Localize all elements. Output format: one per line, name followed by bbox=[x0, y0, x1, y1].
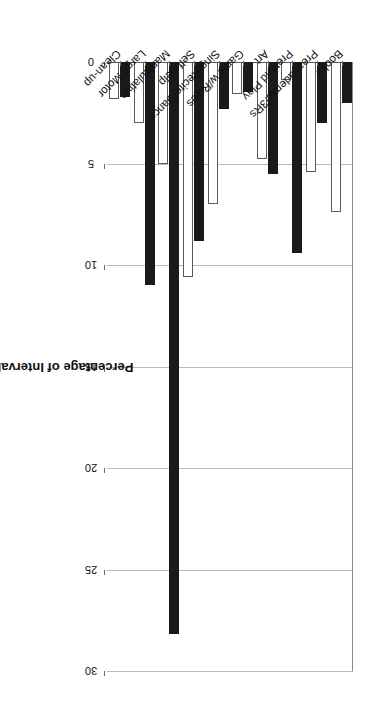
bar-series-2 bbox=[306, 62, 316, 172]
category-tick-mark bbox=[342, 61, 343, 66]
bar-series-1 bbox=[145, 62, 155, 285]
category-tick-mark bbox=[293, 61, 294, 66]
category-tick-mark bbox=[268, 61, 269, 66]
bar-group bbox=[133, 62, 155, 671]
value-tick-label: 5 bbox=[81, 158, 101, 170]
bar-group bbox=[158, 62, 180, 671]
value-tick-label: 10 bbox=[81, 259, 101, 271]
bar-chart: 051015202530 BooksPreacademic/3RsPretend… bbox=[0, 0, 367, 709]
value-tick-mark bbox=[104, 265, 105, 270]
value-tick-mark bbox=[104, 164, 105, 169]
bar-group bbox=[256, 62, 278, 671]
bar-series-1 bbox=[293, 62, 303, 253]
category-tick-mark bbox=[145, 61, 146, 66]
category-tick-mark bbox=[219, 61, 220, 66]
category-tick-mark bbox=[317, 61, 318, 66]
value-tick-mark bbox=[104, 570, 105, 575]
value-tick-label: 25 bbox=[81, 564, 101, 576]
bar-series-1 bbox=[170, 62, 180, 634]
bar-group bbox=[281, 62, 303, 671]
category-tick-mark bbox=[194, 61, 195, 66]
bar-group bbox=[330, 62, 352, 671]
figure-rotated-container: 051015202530 BooksPreacademic/3RsPretend… bbox=[0, 0, 367, 709]
gridline bbox=[107, 671, 353, 672]
bar-series-1 bbox=[342, 62, 352, 103]
value-axis-title: Percentage of Intervals bbox=[0, 359, 134, 374]
category-axis-line bbox=[352, 62, 353, 671]
value-tick-label: 30 bbox=[81, 665, 101, 677]
bar-group bbox=[182, 62, 204, 671]
plot-area bbox=[107, 62, 353, 671]
value-tick-label: 20 bbox=[81, 462, 101, 474]
value-tick-mark bbox=[104, 468, 105, 473]
value-tick-mark bbox=[104, 671, 105, 676]
bar-group bbox=[231, 62, 253, 671]
bar-group bbox=[305, 62, 327, 671]
category-tick-mark bbox=[243, 61, 244, 66]
bar-series-2 bbox=[331, 62, 341, 212]
category-tick-mark bbox=[170, 61, 171, 66]
category-tick-mark bbox=[120, 61, 121, 66]
bar-group bbox=[207, 62, 229, 671]
